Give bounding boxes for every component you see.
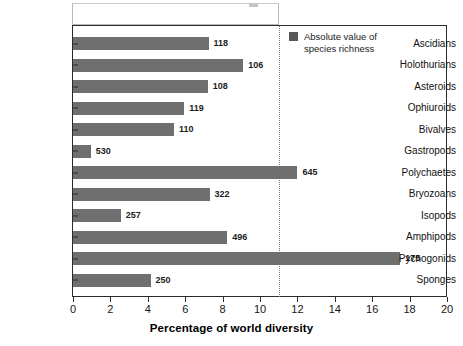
x-axis-tick [297, 297, 298, 302]
bar-row[interactable]: 257 [73, 204, 141, 227]
bar-value-label: 530 [96, 147, 111, 156]
y-axis-tick [73, 151, 78, 152]
y-axis-label-sponges: Sponges [391, 275, 463, 285]
bar-value-label: 250 [156, 276, 171, 285]
y-axis-label-asteroids: Asteroids [391, 82, 463, 92]
y-axis-tick [73, 215, 78, 216]
y-axis-tick [73, 108, 78, 109]
x-axis-title: Percentage of world diversity [0, 322, 463, 334]
bar-value-label: 496 [232, 233, 247, 242]
cropped-title-box [72, 3, 279, 25]
x-axis-tick-label: 0 [70, 304, 76, 315]
x-axis-tick [185, 297, 186, 302]
x-axis-tick-label: 10 [254, 304, 266, 315]
bar-row[interactable]: 250 [73, 269, 171, 292]
x-axis-tick-label: 18 [403, 304, 415, 315]
y-axis-label-pycnogonids: Pycnogonids [391, 254, 463, 264]
bar-row[interactable]: 118 [73, 33, 228, 56]
legend-swatch-absolute-value [289, 32, 298, 41]
bar-holothurians[interactable] [73, 59, 243, 72]
x-axis-tick-label: 14 [329, 304, 341, 315]
y-axis-tick [73, 194, 78, 195]
x-axis-tick [447, 297, 448, 302]
y-axis-label-bryozoans: Bryozoans [391, 189, 463, 199]
x-axis-tick-label: 20 [441, 304, 453, 315]
bar-value-label: 118 [214, 39, 229, 48]
bar-value-label: 322 [215, 190, 230, 199]
x-axis-tick [410, 297, 411, 302]
bar-bryozoans[interactable] [73, 188, 210, 201]
bar-polychaetes[interactable] [73, 166, 297, 179]
x-axis-tick [110, 297, 111, 302]
x-axis-tick-label: 6 [182, 304, 188, 315]
bar-value-label: 106 [248, 61, 263, 70]
bar-row[interactable]: 496 [73, 226, 247, 249]
bar-row[interactable]: 119 [73, 97, 204, 120]
y-axis-tick [73, 280, 78, 281]
bar-value-label: 257 [126, 211, 141, 220]
bar-value-label: 119 [189, 104, 204, 113]
y-axis-tick [73, 172, 78, 173]
x-axis-tick-label: 2 [107, 304, 113, 315]
bar-ophiuroids[interactable] [73, 102, 184, 115]
y-axis-tick [73, 43, 78, 44]
y-axis-tick [73, 86, 78, 87]
bar-value-label: 108 [213, 82, 228, 91]
y-axis-label-amphipods: Amphipods [391, 232, 463, 242]
y-axis-tick [73, 237, 78, 238]
y-axis-label-isopods: Isopods [391, 211, 463, 221]
y-axis-label-polychaetes: Polychaetes [391, 168, 463, 178]
y-axis-label-ascidians: Ascidians [391, 39, 463, 49]
x-axis-tick-label: 4 [145, 304, 151, 315]
x-axis-tick-label: 16 [366, 304, 378, 315]
y-axis-label-gastropods: Gastropods [391, 146, 463, 156]
bar-value-label: 110 [179, 125, 194, 134]
bar-amphipods[interactable] [73, 231, 227, 244]
y-axis-tick [73, 129, 78, 130]
x-axis-tick [260, 297, 261, 302]
bar-row[interactable]: 110 [73, 118, 194, 141]
x-axis-tick [73, 297, 74, 302]
y-axis-label-ophiuroids: Ophiuroids [391, 103, 463, 113]
y-axis-label-holothurians: Holothurians [391, 60, 463, 70]
bar-row[interactable]: 108 [73, 75, 228, 98]
bar-row[interactable]: 530 [73, 140, 111, 163]
bar-row[interactable]: 645 [73, 161, 317, 184]
bar-row[interactable]: 106 [73, 54, 263, 77]
chart-root: 118106108119110530645322257496175250 Asc… [0, 0, 463, 346]
y-axis-tick [73, 65, 78, 66]
bar-value-label: 645 [302, 168, 317, 177]
x-axis-tick [223, 297, 224, 302]
bar-row[interactable]: 322 [73, 183, 230, 206]
x-axis-tick [372, 297, 373, 302]
x-axis-tick-label: 12 [291, 304, 303, 315]
bar-isopods[interactable] [73, 209, 121, 222]
x-axis-tick [148, 297, 149, 302]
x-axis-tick-label: 8 [220, 304, 226, 315]
bar-sponges[interactable] [73, 274, 151, 287]
y-axis-tick [73, 258, 78, 259]
bar-row[interactable]: 175 [73, 247, 420, 270]
legend: Absolute value of species richness [289, 31, 377, 55]
bar-ascidians[interactable] [73, 37, 209, 50]
legend-label-absolute-value: Absolute value of species richness [304, 31, 377, 55]
bar-bivalves[interactable] [73, 123, 174, 136]
y-axis-label-bivalves: Bivalves [391, 125, 463, 135]
x-axis-tick [335, 297, 336, 302]
bar-asteroids[interactable] [73, 80, 208, 93]
title-box-nub [249, 4, 258, 7]
bar-pycnogonids[interactable] [73, 252, 400, 265]
